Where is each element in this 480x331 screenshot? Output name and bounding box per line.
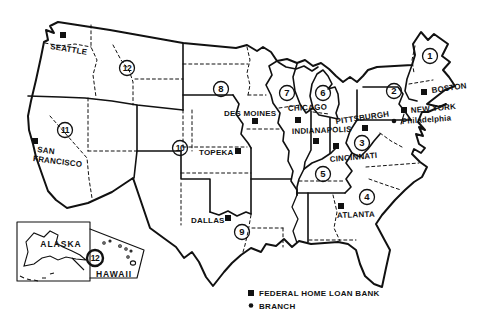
district-number: 11 [61,125,70,135]
city-label: TOPEKA [199,148,233,157]
city-boston: BOSTON [421,81,467,95]
branch-dot-icon [392,119,397,124]
district-number: 5 [320,168,326,179]
bank-square-icon [60,32,66,38]
bank-square-icon [235,148,241,154]
legend: FEDERAL HOME LOAN BANKBRANCH [248,289,380,311]
district-boundary-11-12 [28,96,183,110]
map-canvas: 12345678910111212 SEATTLESANFRANCISCODES… [0,0,480,331]
legend-item-branch: BRANCH [249,302,296,311]
city-label-group: SEATTLE [50,42,89,57]
us-fhlb-district-map: 12345678910111212 SEATTLESANFRANCISCODES… [0,0,480,331]
city-label: INDIANAPOLIS [292,125,352,136]
hawaii-islands [103,240,136,265]
district-number: 2 [391,85,396,96]
bank-square-icon [333,143,339,149]
city-label: SEATTLE [50,42,89,57]
city-label-group: SANFRANCISCO [33,145,84,169]
map-linework [17,22,455,287]
city-label: ATLANTA [337,210,375,220]
city-label: CINCINNATI [329,151,377,164]
city-label-group: CHICAGO [288,103,327,113]
city-label: Philadelphia [402,114,452,126]
city-seattle: SEATTLE [50,32,89,57]
city-indianapolis: INDIANAPOLIS [292,125,352,144]
district-3-badge: 3 [355,136,370,151]
district-boundary-missouri-river [233,95,251,148]
city-label-group: TOPEKA [199,148,233,157]
district-12-badge: 12 [120,61,135,76]
city-label-group: DES MOINES [224,109,277,118]
district-number: 8 [218,83,223,94]
district-number: 4 [364,191,370,202]
district-number: 6 [320,87,325,98]
district-6-badge: 6 [316,86,331,101]
district-9-badge: 9 [235,225,250,240]
bank-square-icon [295,117,301,123]
bank-square-icon [401,107,407,113]
aleutian-islands [20,273,54,281]
district-boundary-oklahoma-west [181,151,210,212]
district-number: 1 [427,50,433,61]
city-label: DALLAS [191,216,225,225]
legend-label: FEDERAL HOME LOAN BANK [259,289,380,298]
city-label-group: CINCINNATI [329,151,377,164]
legend-bank-square-icon [248,290,254,296]
bank-square-icon [338,203,344,209]
alaska-label: ALASKA [40,239,81,249]
mississippi-river-lower [292,195,298,243]
district-number: 7 [284,87,289,98]
city-des-moines: DES MOINES [224,109,277,124]
district-number: 10 [176,143,185,153]
city-label: DES MOINES [224,109,277,118]
city-dallas: DALLAS [191,215,231,225]
city-label-group: BOSTON [431,81,467,95]
city-label-group: INDIANAPOLIS [292,125,352,136]
city-atlanta: ATLANTA [337,203,375,220]
us-outline [28,22,455,287]
city-label-group: Philadelphia [402,114,452,126]
district-2-badge: 2 [387,84,402,99]
district-boundary-11-east [134,105,137,178]
district-11-badge: 11 [58,123,73,138]
bank-square-icon [225,215,231,221]
district-12-badge: 12 [87,250,103,266]
city-label-group: PITTSBURGH [335,110,390,126]
bank-square-icon [252,118,258,124]
district-10-badge: 10 [173,141,188,156]
city-topeka: TOPEKA [199,148,241,157]
district-boundary-ohio-river [297,146,338,195]
city-label: CHICAGO [288,103,327,113]
bank-square-icon [313,138,319,144]
district-number: 12 [123,63,132,73]
legend-label: BRANCH [259,302,295,311]
city-san-francisco: SANFRANCISCO [32,138,84,169]
legend-branch-dot-icon [249,303,254,308]
city-label-group: ATLANTA [337,210,375,220]
city-label: BOSTON [431,81,467,95]
district-5-badge: 5 [316,167,331,182]
bank-square-icon [32,138,38,144]
legend-item-federal-home-loan-bank: FEDERAL HOME LOAN BANK [248,289,380,298]
district-4-badge: 4 [360,190,375,205]
hawaii-label: HAWAII [96,269,132,279]
bank-square-icon [362,125,368,131]
city-label-group: DALLAS [191,216,225,225]
district-number: 12 [91,253,100,263]
district-boundary-il-in [304,111,311,169]
district-1-badge: 1 [423,49,438,64]
bank-square-icon [421,89,427,95]
district-8-badge: 8 [214,82,229,97]
city-label: PITTSBURGH [335,110,390,126]
district-number: 3 [359,137,364,148]
district-number: 9 [239,226,244,237]
district-7-badge: 7 [280,86,295,101]
